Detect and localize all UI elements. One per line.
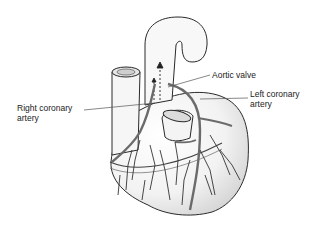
- aortic-valve-text: Aortic valve: [212, 70, 256, 80]
- right-coronary-line1: Right coronary: [17, 103, 72, 113]
- right-coronary-line2: artery: [17, 113, 72, 123]
- label-aortic-valve: Aortic valve: [212, 70, 256, 80]
- label-left-coronary-artery: Left coronary artery: [250, 89, 300, 109]
- left-coronary-line2: artery: [250, 99, 300, 109]
- superior-vena-cava: [112, 72, 140, 155]
- left-coronary-line1: Left coronary: [250, 89, 300, 99]
- label-right-coronary-artery: Right coronary artery: [17, 103, 72, 123]
